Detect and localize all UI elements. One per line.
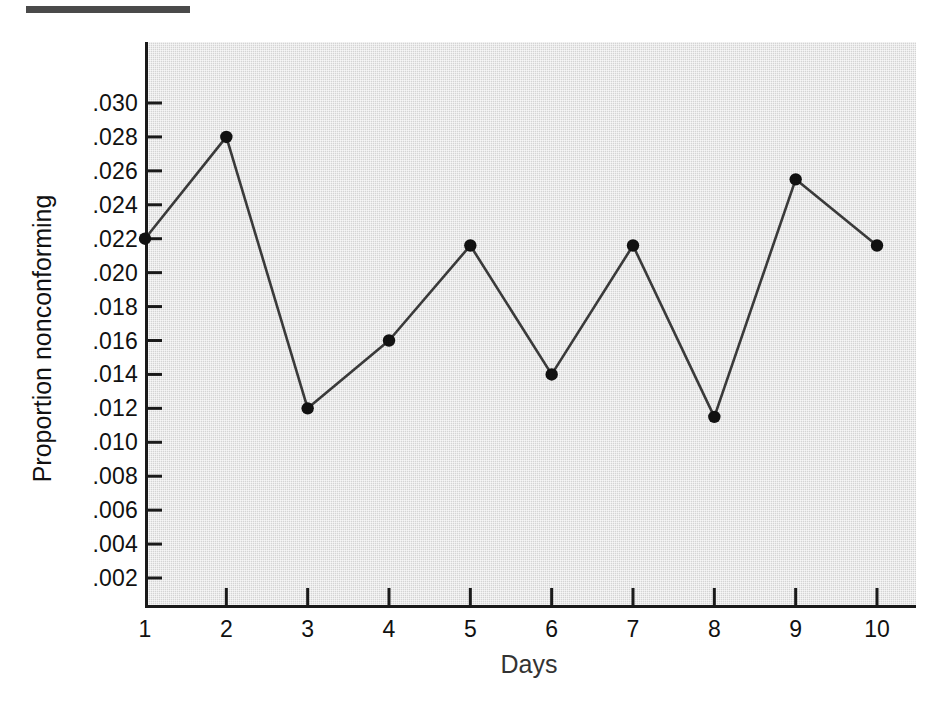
data-point-marker [545, 368, 557, 380]
data-point-marker [871, 239, 883, 251]
data-point-marker [139, 233, 151, 245]
data-point-markers [139, 131, 883, 423]
chart-svg-layer [0, 0, 941, 707]
data-point-marker [464, 239, 476, 251]
data-point-marker [220, 131, 232, 143]
data-line [145, 137, 877, 417]
y-axis-tick-marks [145, 103, 162, 578]
chart-figure: .030.028.026.024.022.020.018.016.014.012… [0, 0, 941, 707]
data-point-marker [789, 173, 801, 185]
data-point-marker [383, 334, 395, 346]
x-axis-tick-marks [226, 588, 877, 605]
data-point-marker [301, 402, 313, 414]
data-point-marker [627, 239, 639, 251]
data-point-marker [708, 411, 720, 423]
